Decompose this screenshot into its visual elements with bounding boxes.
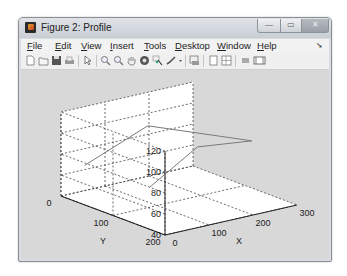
- x-tick-label: 100: [211, 228, 226, 238]
- menu-insert[interactable]: Insert: [110, 40, 134, 51]
- menu-label: dit: [61, 40, 71, 51]
- x-axis-label: X: [236, 236, 242, 246]
- toolbar-separator: [203, 55, 204, 67]
- menu-label: ools: [149, 40, 166, 51]
- figure-toolbar: [21, 53, 329, 70]
- brush-dropdown-icon[interactable]: [178, 55, 183, 66]
- menu-view[interactable]: View: [81, 40, 101, 51]
- pan-hand-icon[interactable]: [126, 55, 137, 66]
- new-figure-icon[interactable]: [25, 55, 36, 66]
- mnemonic: D: [175, 40, 182, 51]
- minimize-button[interactable]: —: [257, 19, 281, 33]
- y-tick-label: 100: [93, 218, 108, 228]
- mnemonic: W: [217, 40, 226, 51]
- brush-icon[interactable]: [166, 55, 177, 66]
- print-icon[interactable]: [64, 55, 75, 66]
- menu-bar: File Edit View Insert Tools Desktop Wind…: [21, 39, 329, 53]
- z-tick-label: 100: [146, 167, 161, 177]
- menu-label: indow: [226, 40, 251, 51]
- link-plot-icon[interactable]: [189, 55, 200, 66]
- plot-area: 40608010012001002000100200300YX: [21, 70, 329, 259]
- toolbar-separator: [78, 55, 79, 67]
- z-tick-label: 120: [146, 146, 161, 156]
- menu-window[interactable]: Window: [217, 40, 251, 51]
- menu-label: elp: [264, 40, 277, 51]
- x-tick-label: 0: [172, 238, 177, 248]
- toolbar-separator: [96, 55, 97, 67]
- hide-plot-tools-icon[interactable]: [240, 55, 251, 66]
- colorbar-icon[interactable]: [208, 55, 219, 66]
- maximize-button[interactable]: ▭: [280, 19, 302, 33]
- toolbar-separator: [185, 55, 186, 67]
- y-tick-label: 200: [145, 237, 160, 247]
- dock-arrow-icon[interactable]: ➘: [316, 41, 323, 50]
- menu-label: ile: [33, 40, 43, 51]
- menu-tools[interactable]: Tools: [144, 40, 166, 51]
- menu-desktop[interactable]: Desktop: [175, 40, 210, 51]
- open-file-icon[interactable]: [38, 55, 49, 66]
- title-bar[interactable]: Figure 2: Profile — ▭ ✕: [19, 18, 331, 38]
- menu-file[interactable]: File: [27, 40, 42, 51]
- window-title: Figure 2: Profile: [41, 22, 112, 33]
- edit-plot-arrow-icon[interactable]: [82, 55, 93, 66]
- z-tick-label: 60: [151, 209, 161, 219]
- y-tick-label: 0: [46, 198, 51, 208]
- menu-label: nsert: [113, 40, 134, 51]
- menu-label: esktop: [182, 40, 210, 51]
- axes-3d[interactable]: 40608010012001002000100200300YX: [21, 70, 329, 259]
- zoom-in-icon[interactable]: [100, 55, 111, 66]
- mnemonic: H: [257, 40, 264, 51]
- menu-edit[interactable]: Edit: [55, 40, 71, 51]
- show-plot-tools-icon[interactable]: [253, 55, 266, 66]
- zoom-out-icon[interactable]: [113, 55, 124, 66]
- menu-label: iew: [87, 40, 101, 51]
- toolbar-separator: [235, 55, 236, 67]
- save-icon[interactable]: [51, 55, 62, 66]
- matlab-figure-icon: [25, 22, 36, 33]
- x-tick-label: 200: [255, 218, 270, 228]
- x-tick-label: 300: [299, 208, 314, 218]
- maximize-icon: ▭: [281, 20, 301, 29]
- legend-icon[interactable]: [221, 55, 232, 66]
- close-icon: ✕: [302, 20, 328, 29]
- minimize-icon: —: [258, 20, 280, 29]
- data-cursor-icon[interactable]: [152, 55, 163, 66]
- y-axis-label: Y: [100, 236, 106, 246]
- close-button[interactable]: ✕: [301, 19, 329, 33]
- rotate-3d-icon[interactable]: [139, 55, 150, 66]
- figure-window: Figure 2: Profile — ▭ ✕ File Edit View I…: [18, 17, 332, 262]
- z-tick-label: 80: [151, 188, 161, 198]
- menu-help[interactable]: Help: [257, 40, 277, 51]
